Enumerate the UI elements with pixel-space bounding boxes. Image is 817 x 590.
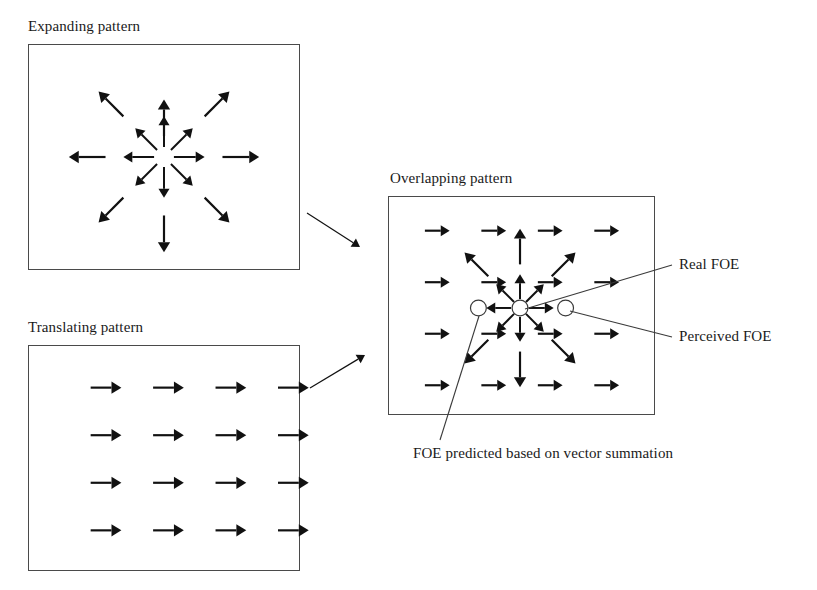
translation-arrow-r4-c2 [481,380,506,391]
outer-sw [99,198,124,223]
translation-arrow-r2-c2 [153,429,184,441]
inner-e [529,302,554,313]
translation-arrow-r2-c4 [278,429,309,441]
outer-s [158,215,170,252]
inner-n [514,274,525,299]
inner-w [123,151,154,162]
translation-arrow-r1-c3 [538,225,563,236]
optic-flow-figure: Expanding patternTranslating patternOver… [0,0,817,590]
inner-e [174,151,205,162]
inner-nw [135,128,157,150]
inner-se [526,314,544,332]
translation-arrow-r3-c3 [216,477,247,489]
expanding-to-overlapping-arrow [307,213,360,247]
translation-arrow-r3-c2 [153,477,184,489]
outer-ne [552,252,576,276]
panel-canvas-translating [29,346,299,570]
panel-caption-translating: Translating pattern [28,319,143,336]
panel-canvas-expanding [29,45,299,269]
inner-sw [496,314,514,332]
outer-ne [205,92,230,117]
translation-arrow-r2-c1 [425,277,450,288]
translation-arrow-r4-c1 [425,380,450,391]
inner-sw [135,164,157,186]
translation-arrow-r1-c2 [481,225,506,236]
outer-nw [99,92,124,117]
outer-se [205,198,230,223]
panel-caption-expanding: Expanding pattern [28,18,140,35]
translation-arrow-r1-c2 [153,381,184,393]
inner-se [171,164,193,186]
translation-arrow-r4-c4 [594,380,619,391]
translation-arrow-r4-c1 [91,524,122,536]
translation-arrow-r1-c4 [278,381,309,393]
outer-nw [465,252,489,276]
inner-nw [496,284,514,302]
translation-arrow-r3-c1 [91,477,122,489]
panel-overlapping [388,196,655,415]
panel-caption-overlapping: Overlapping pattern [390,170,512,187]
outer-s [514,352,526,388]
perceived-foe-marker [558,300,574,316]
translation-arrow-r3-c1 [425,328,450,339]
foe-predicted-marker [470,300,486,316]
translation-arrow-r1-c1 [91,381,122,393]
translation-arrow-r3-c4 [594,328,619,339]
real-foe-marker [512,300,528,316]
translation-arrow-r4-c3 [538,380,563,391]
translation-arrow-r4-c2 [153,524,184,536]
panel-translating [28,345,300,571]
annotation-label-real-foe: Real FOE [679,256,739,273]
outer-n [158,100,170,137]
translation-arrow-r1-c1 [425,225,450,236]
annotation-label-perceived-foe: Perceived FOE [679,328,772,345]
outer-w [69,151,106,163]
translation-arrow-r4-c3 [216,524,247,536]
outer-se [552,340,576,364]
panel-expanding [28,44,300,270]
translation-arrow-r1-c4 [594,225,619,236]
translation-arrow-r2-c1 [91,429,122,441]
panel-canvas-overlapping [389,197,654,414]
translation-arrow-r3-c4 [278,477,309,489]
translation-arrow-r2-c4 [594,277,619,288]
inner-ne [171,128,193,150]
translating-to-overlapping-arrow [310,355,365,388]
outer-n [514,229,526,265]
translation-arrow-r1-c3 [216,381,247,393]
inner-w [486,302,511,313]
inner-ne [526,284,544,302]
outer-sw [465,340,489,364]
inner-s [158,167,169,198]
translation-arrow-r4-c4 [278,524,309,536]
annotation-label-foe-predicted: FOE predicted based on vector summation [413,445,673,462]
translation-arrow-r2-c3 [216,429,247,441]
outer-e [222,151,259,163]
inner-s [514,317,525,342]
